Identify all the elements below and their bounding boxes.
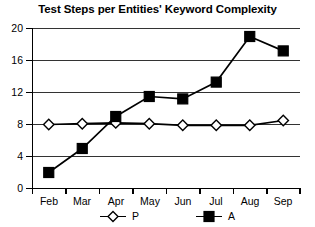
x-label-may: May bbox=[140, 195, 161, 207]
legend-item-a[interactable]: A bbox=[196, 210, 235, 222]
y-axis-ticks bbox=[26, 29, 32, 189]
x-label-mar: Mar bbox=[73, 195, 92, 207]
marker-open-diamond[interactable] bbox=[245, 120, 255, 130]
chart-plot-area: 20 16 12 8 4 0 Feb Mar Apr May Jun Jul bbox=[0, 0, 315, 227]
chart-legend: P A bbox=[100, 210, 235, 222]
y-axis-labels: 20 16 12 8 4 0 bbox=[11, 22, 23, 194]
marker-open-diamond[interactable] bbox=[44, 119, 54, 129]
x-axis-labels: Feb Mar Apr May Jun Jul Aug Sep bbox=[40, 195, 293, 207]
x-label-feb: Feb bbox=[40, 195, 58, 207]
data-series-layer bbox=[44, 32, 289, 178]
marker-filled-square[interactable] bbox=[111, 112, 121, 122]
axes bbox=[32, 28, 300, 189]
legend-label-p: P bbox=[132, 210, 139, 222]
marker-filled-square[interactable] bbox=[77, 144, 87, 154]
y-tick-label-0: 0 bbox=[17, 182, 23, 194]
marker-filled-square[interactable] bbox=[245, 32, 255, 42]
marker-open-diamond[interactable] bbox=[77, 119, 87, 129]
y-tick-label-4: 4 bbox=[17, 150, 23, 162]
x-label-jul: Jul bbox=[209, 195, 222, 207]
marker-open-diamond[interactable] bbox=[211, 120, 221, 130]
legend-item-p[interactable]: P bbox=[100, 210, 139, 222]
y-tick-label-12: 12 bbox=[11, 86, 23, 98]
marker-filled-square[interactable] bbox=[211, 77, 221, 87]
marker-filled-square[interactable] bbox=[278, 46, 288, 56]
y-tick-label-20: 20 bbox=[11, 22, 23, 34]
series-p bbox=[44, 115, 289, 130]
marker-filled-square[interactable] bbox=[178, 94, 188, 104]
marker-open-diamond[interactable] bbox=[144, 119, 154, 129]
gridlines bbox=[32, 29, 300, 157]
marker-open-diamond[interactable] bbox=[178, 120, 188, 130]
x-label-apr: Apr bbox=[108, 195, 125, 207]
x-label-sep: Sep bbox=[274, 195, 293, 207]
x-label-aug: Aug bbox=[241, 195, 260, 207]
y-tick-label-8: 8 bbox=[17, 118, 23, 130]
legend-marker-filled-square bbox=[204, 212, 214, 222]
series-a bbox=[44, 32, 289, 178]
marker-filled-square[interactable] bbox=[144, 92, 154, 102]
x-label-jun: Jun bbox=[175, 195, 192, 207]
legend-marker-open-diamond bbox=[108, 212, 118, 222]
chart-container: Test Steps per Entities' Keyword Complex… bbox=[0, 0, 315, 227]
legend-label-a: A bbox=[228, 210, 235, 222]
y-tick-label-16: 16 bbox=[11, 54, 23, 66]
marker-filled-square[interactable] bbox=[44, 168, 54, 178]
